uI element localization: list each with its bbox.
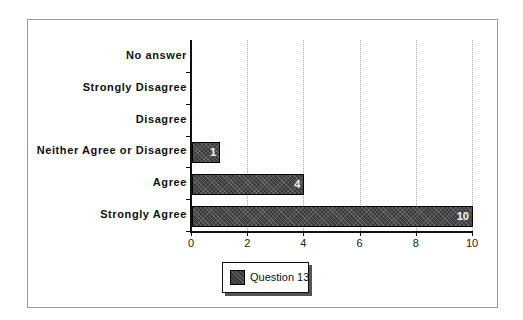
legend-swatch-icon	[230, 270, 245, 285]
bar-value-label: 1	[210, 146, 216, 158]
bar-value-label: 10	[457, 210, 469, 222]
x-tick	[247, 231, 248, 236]
bar-value-label: 4	[294, 178, 300, 190]
y-tick	[186, 231, 191, 232]
bar: 10	[192, 206, 473, 227]
bar: 1	[192, 142, 220, 163]
y-tick	[186, 136, 191, 137]
category-label: Strongly Agree	[7, 208, 187, 220]
x-tick	[360, 231, 361, 236]
category-label: No answer	[7, 49, 187, 61]
category-label: Agree	[7, 176, 187, 188]
gridline	[416, 40, 417, 231]
gridline	[360, 40, 361, 231]
bar: 4	[192, 174, 304, 195]
legend-label: Question 13	[250, 271, 309, 283]
x-axis	[190, 231, 473, 233]
x-tick-label: 6	[350, 237, 370, 249]
x-tick	[472, 231, 473, 236]
y-tick	[186, 199, 191, 200]
gridline	[303, 40, 304, 231]
x-tick	[303, 231, 304, 236]
x-tick-label: 10	[462, 237, 482, 249]
y-tick	[186, 104, 191, 105]
category-label: Strongly Disagree	[7, 81, 187, 93]
y-tick	[186, 167, 191, 168]
category-label: Disagree	[7, 113, 187, 125]
legend: Question 13	[222, 262, 309, 293]
y-tick	[186, 72, 191, 73]
gridline	[472, 40, 473, 231]
x-tick	[416, 231, 417, 236]
gridline	[247, 40, 248, 231]
category-label: Neither Agree or Disagree	[7, 144, 187, 156]
x-tick-label: 4	[293, 237, 313, 249]
y-axis	[190, 40, 192, 233]
x-tick	[191, 231, 192, 236]
x-tick-label: 2	[237, 237, 257, 249]
x-tick-label: 0	[181, 237, 201, 249]
x-tick-label: 8	[406, 237, 426, 249]
